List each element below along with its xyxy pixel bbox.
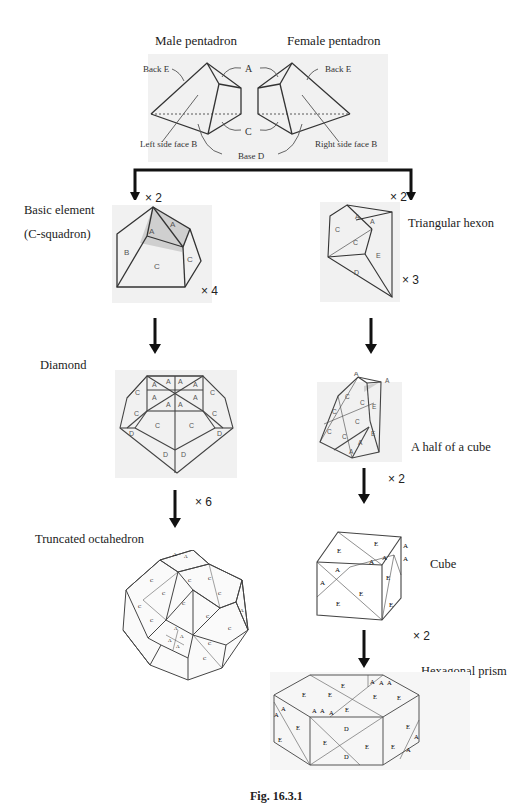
face-c: C [327,428,332,435]
face-a: A [329,709,334,716]
face-a: A [320,579,325,587]
cube-diagram: E E A A A A E E E E A A [312,515,417,625]
face-a: A [385,377,390,384]
diamond-multiplier: × 6 [195,495,212,509]
face-c: C [332,408,337,415]
face-e: E [373,693,377,700]
left-side-face-b-label: Left side face B [140,139,197,149]
face-a: A [379,679,384,686]
face-e: E [345,706,349,713]
face-a: A [176,644,180,649]
half-cube-multiplier: × 2 [388,472,405,486]
diamond-diagram: A A A A A A A A C C C C C C D D D D [115,370,237,480]
diamond-title: Diamond [40,358,87,373]
face-c: C [187,255,193,264]
face-a: A [312,707,317,714]
face-e: E [278,736,282,743]
back-e-right-label: Back E [325,64,352,74]
face-e: E [341,682,345,689]
face-a: A [149,227,155,236]
face-e: E [323,739,327,746]
face-e: E [376,252,381,259]
triangular-hexon-multiplier: × 3 [402,273,419,287]
basic-element-title: Basic element [24,203,94,218]
arrow-to-diamond [148,318,162,356]
face-d: D [344,725,349,732]
face-a: A [382,554,387,562]
figure-caption: Fig. 16.3.1 [250,789,303,804]
female-pentadron-title: Female pentadron [287,33,381,49]
half-cube-title: A half of a cube [411,440,491,455]
face-a: A [370,218,375,225]
face-c: C [212,410,217,417]
face-d: D [163,451,168,458]
face-c-label: C [245,126,252,137]
face-a: A [166,378,171,385]
arrow-to-cube [357,468,371,506]
face-a: A [166,401,171,408]
face-a: A [240,608,244,613]
face-e: E [302,691,306,698]
pentadron-diagram: Back E Back E A C Left side face B Right… [140,50,400,165]
cube-multiplier: × 2 [413,629,430,643]
face-e: E [296,724,300,731]
face-e: E [371,430,376,437]
face-a: A [369,558,374,566]
triangular-hexon-diagram: A A C C E D [320,202,400,307]
face-a: A [387,679,392,686]
face-e: E [406,723,410,730]
face-e: E [336,600,340,608]
face-e: E [386,574,390,582]
face-a: A [349,448,354,455]
face-c: C [345,393,350,400]
arrow-to-truncated-octahedron [168,490,182,530]
face-a: A [184,554,188,559]
half-cube-diagram: A A C C C C C C E E A A [312,372,422,467]
face-a: A [178,401,183,408]
back-e-left-label: Back E [143,64,170,74]
face-d: D [217,430,222,437]
face-c: C [210,389,215,396]
face-e: E [372,403,377,410]
face-a: A [180,634,184,639]
face-c: C [155,422,160,429]
face-e: E [389,601,393,609]
face-a: A [414,733,419,740]
face-a: A [152,381,157,388]
face-a: A [173,552,177,557]
face-c: C [154,262,160,271]
face-a: A [354,372,359,377]
face-e: E [328,691,332,698]
face-c: C [342,433,347,440]
face-d: D [181,451,186,458]
face-c: C [353,239,358,246]
hexagonal-prism-diagram: E A A A E E E E A A A A A E E E E D E E … [270,672,470,772]
face-a: A [281,705,286,712]
face-a: A [406,746,411,753]
face-c: C [355,418,360,425]
face-e: E [391,743,395,750]
face-d: D [129,430,134,437]
face-a: A [170,220,176,229]
arrow-to-half-cube [364,318,378,356]
face-a: A [403,542,408,550]
male-pentadron-title: Male pentadron [155,33,237,49]
truncated-octahedron-diagram: C C C C C C C C C C C C A A A A A A A [118,550,253,682]
face-a: A [335,566,340,574]
truncated-octahedron-title: Truncated octahedron [35,532,144,547]
branch-arrows [0,160,532,200]
left-branch-multiplier: × 2 [145,191,162,205]
basic-element-diagram: A A B C C [112,205,212,305]
face-c: C [134,410,139,417]
face-e: E [374,540,378,548]
c-squadron-subtitle: (C-squadron) [24,227,91,242]
face-a: A [193,394,198,401]
face-c: C [360,399,365,406]
face-a: A [152,394,157,401]
face-e: E [359,590,363,598]
right-side-face-b-label: Right side face B [315,139,377,149]
face-a: A [358,439,363,446]
basic-element-multiplier: × 4 [201,284,218,298]
face-d: D [354,269,359,276]
face-d: D [344,753,349,760]
